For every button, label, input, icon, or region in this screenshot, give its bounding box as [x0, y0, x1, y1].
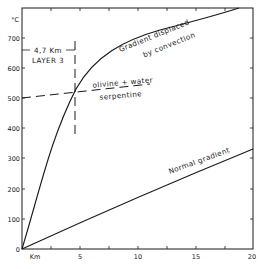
y-tick-200: 200 [8, 186, 20, 194]
y-axis [22, 38, 253, 219]
y-tick-100: 100 [8, 216, 20, 224]
x-tick-10: 10 [134, 253, 142, 261]
olivine-water-label: olivine + water [92, 75, 153, 89]
layer3-name-label: LAYER 3 [32, 56, 64, 65]
x-tick-20: 20 [248, 253, 256, 261]
y-tick-300: 300 [8, 155, 20, 163]
x-tick-15: 15 [192, 253, 200, 261]
temperature-depth-chart: °C 700 600 500 400 300 200 100 0 Km 5 10… [0, 0, 261, 269]
y-tick-labels: °C 700 600 500 400 300 200 100 0 [8, 16, 20, 254]
y-tick-700: 700 [8, 35, 20, 43]
x-tick-5: 5 [78, 253, 82, 261]
x-tick-labels: Km 5 10 15 20 [30, 253, 256, 261]
normal-gradient-line [22, 149, 253, 249]
y-tick-500: 500 [8, 95, 20, 103]
layer3-width-label: 4,7 Km [34, 46, 62, 55]
y-tick-600: 600 [8, 65, 20, 73]
y-tick-400: 400 [8, 125, 20, 133]
y-unit-label: °C [11, 16, 19, 24]
x-unit-label: Km [30, 253, 41, 261]
serpentine-label: serpentine [99, 89, 142, 102]
y-tick-0: 0 [16, 246, 20, 254]
